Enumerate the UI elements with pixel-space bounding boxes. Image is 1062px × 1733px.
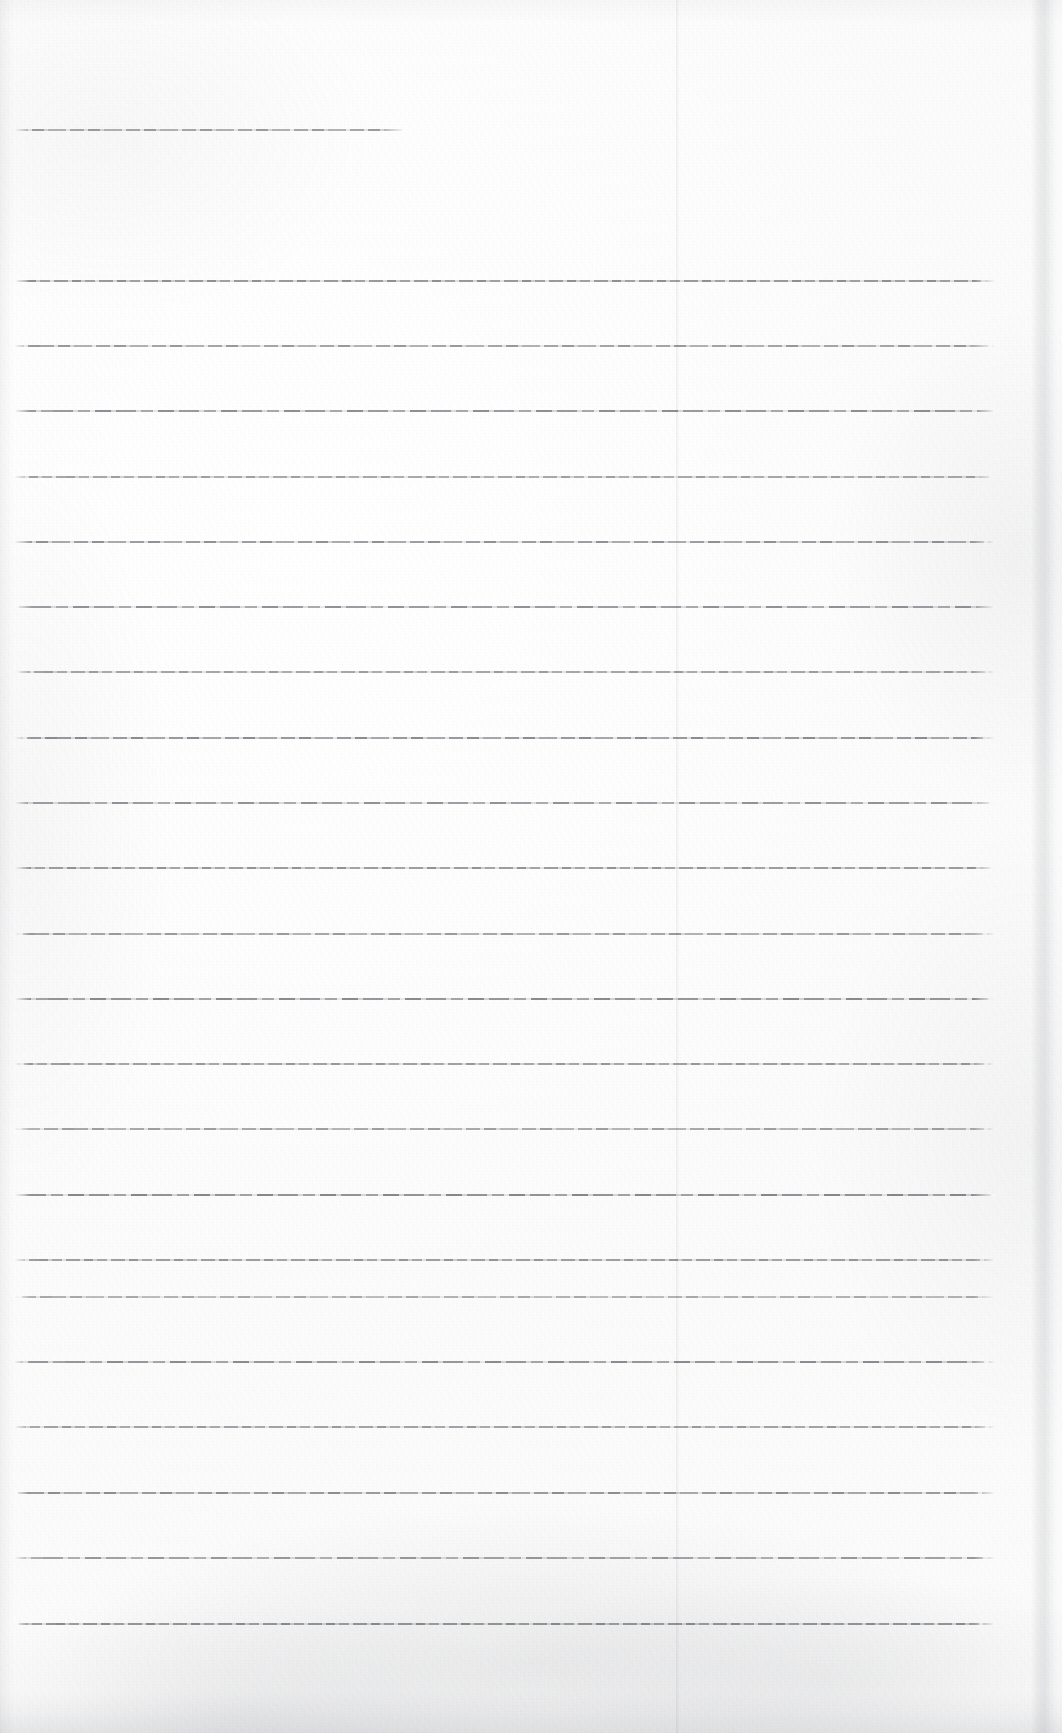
scanned-page xyxy=(0,0,1062,1733)
paper-background xyxy=(0,0,1062,1733)
